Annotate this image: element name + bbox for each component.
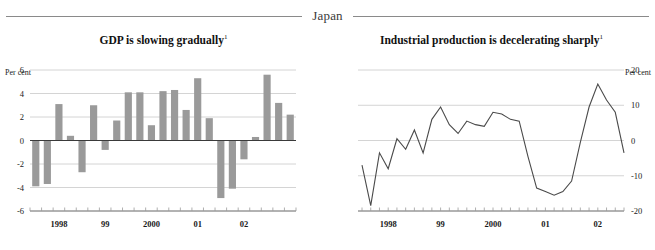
bar-gdp <box>44 141 51 184</box>
bar-gdp <box>287 115 294 141</box>
bar-gdp <box>217 141 224 199</box>
bar-chart-gdp: 6420-2-4-619989920000102 <box>0 48 327 248</box>
y-axis-tick-label-gdp: 4 <box>20 89 25 99</box>
plot-area-gdp: Per cent 6420-2-4-619989920000102 <box>0 48 327 248</box>
bar-gdp <box>264 75 271 141</box>
plot-area-industrial-production: Per cent 20100-10-2019989920000102 <box>328 48 655 248</box>
bar-gdp <box>171 90 178 141</box>
bar-gdp <box>206 118 213 140</box>
chart-title-gdp-text: GDP is slowing gradually <box>100 34 224 46</box>
chart-title-industrial-production: Industrial production is decelerating sh… <box>328 32 655 48</box>
chart-title-gdp: GDP is slowing gradually1 <box>0 32 327 48</box>
bar-gdp <box>183 110 190 141</box>
y-axis-tick-label-gdp: 0 <box>20 136 24 146</box>
x-axis-label-ip: 1998 <box>380 219 397 229</box>
x-axis-label-ip: 02 <box>594 219 603 229</box>
x-axis-label-gdp: 2000 <box>143 219 160 229</box>
y-axis-tick-label-ip: 10 <box>631 100 640 110</box>
bar-gdp <box>136 92 143 140</box>
bar-gdp <box>229 141 236 189</box>
bar-gdp <box>159 91 166 140</box>
bar-gdp <box>194 78 201 140</box>
panel-industrial-production: Industrial production is decelerating sh… <box>328 32 655 250</box>
y-axis-tick-label-gdp: -2 <box>17 159 24 169</box>
chart-title-ip-footnote-marker: 1 <box>600 33 604 41</box>
chart-title-gdp-footnote-marker: 1 <box>224 33 228 41</box>
data-series-line-ip <box>362 84 624 206</box>
bar-gdp <box>67 136 74 141</box>
x-axis-label-gdp: 02 <box>240 219 249 229</box>
bar-gdp <box>32 141 39 187</box>
y-axis-tick-label-ip: 0 <box>631 136 635 146</box>
bar-gdp <box>55 104 62 140</box>
x-axis-label-ip: 01 <box>541 219 550 229</box>
y-axis-tick-label-gdp: -4 <box>17 183 25 193</box>
page-title: Japan <box>312 8 343 24</box>
bar-gdp <box>102 141 109 150</box>
bar-gdp <box>275 103 282 141</box>
bar-gdp <box>240 141 247 160</box>
panel-gdp: GDP is slowing gradually1 Per cent 6420-… <box>0 32 327 250</box>
bar-gdp <box>125 92 132 140</box>
y-axis-tick-label-ip: -10 <box>631 171 642 181</box>
bar-gdp <box>148 125 155 140</box>
bar-gdp <box>113 121 120 141</box>
x-axis-label-gdp: 1998 <box>50 219 67 229</box>
y-axis-tick-label-gdp: -6 <box>17 206 24 216</box>
y-axis-tick-label-ip: -20 <box>631 206 642 216</box>
bar-gdp <box>90 105 97 140</box>
bar-gdp <box>78 141 85 173</box>
x-axis-label-gdp: 99 <box>101 219 110 229</box>
line-chart-industrial-production: 20100-10-2019989920000102 <box>328 48 655 248</box>
y-axis-tick-label-ip: 20 <box>631 65 640 75</box>
header-rule-right <box>353 16 649 17</box>
x-axis-label-gdp: 01 <box>193 219 202 229</box>
y-axis-tick-label-gdp: 6 <box>20 65 24 75</box>
x-axis-label-ip: 2000 <box>485 219 502 229</box>
header-rule-left <box>6 16 302 17</box>
x-axis-label-ip: 99 <box>436 219 445 229</box>
page-header: Japan <box>0 6 655 26</box>
chart-title-ip-text: Industrial production is decelerating sh… <box>380 34 600 46</box>
y-axis-tick-label-gdp: 2 <box>20 112 24 122</box>
